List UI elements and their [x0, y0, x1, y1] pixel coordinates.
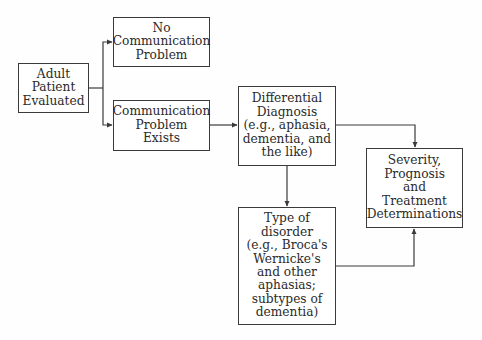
node-type-of-disorder: Type of disorder (e.g., Broca's Wernicke…	[238, 207, 336, 325]
node-label: Adult Patient Evaluated	[23, 68, 85, 108]
flowchart-canvas: Adult Patient Evaluated No Communication…	[0, 0, 482, 340]
node-differential-diagnosis: Differential Diagnosis (e.g., aphasia, d…	[238, 86, 336, 166]
node-label: Type of disorder (e.g., Broca's Wernicke…	[246, 212, 327, 319]
node-label: Severity, Prognosis and Treatment Determ…	[367, 154, 463, 221]
edge-differential-to-severity	[336, 125, 415, 147]
node-adult-patient-evaluated: Adult Patient Evaluated	[18, 63, 89, 113]
edge-adult-to-no-problem	[103, 42, 112, 88]
node-label: No Communication Problem	[113, 22, 210, 62]
node-communication-problem-exists: Communication Problem Exists	[113, 100, 210, 151]
edge-type-to-severity	[336, 229, 414, 266]
node-label: Communication Problem Exists	[113, 105, 210, 145]
node-severity-prognosis-treatment: Severity, Prognosis and Treatment Determ…	[366, 148, 463, 228]
node-no-communication-problem: No Communication Problem	[113, 17, 210, 67]
edge-adult-to-problem-exists	[103, 88, 112, 125]
node-label: Differential Diagnosis (e.g., aphasia, d…	[243, 92, 331, 159]
